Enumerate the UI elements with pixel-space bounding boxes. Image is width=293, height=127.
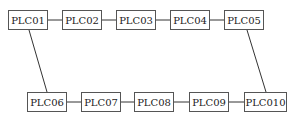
link-plc01-plc06 [29,30,47,92]
node-label: PLC06 [30,97,64,108]
node-label: PLC03 [119,15,153,26]
node-plc06: PLC06 [27,92,67,112]
node-label: PLC04 [173,15,207,26]
node-label: PLC05 [227,15,261,26]
node-plc010: PLC010 [244,92,287,112]
node-label: PLC09 [192,97,226,108]
node-plc03: PLC03 [116,10,156,30]
node-label: PLC07 [84,97,118,108]
node-label: PLC02 [65,15,99,26]
node-label: PLC01 [11,15,45,26]
node-plc04: PLC04 [170,10,210,30]
link-plc05-plc010 [247,30,266,92]
node-plc09: PLC09 [189,92,229,112]
node-label: PLC08 [137,97,171,108]
node-plc02: PLC02 [62,10,102,30]
node-plc07: PLC07 [81,92,121,112]
node-plc05: PLC05 [224,10,264,30]
node-plc08: PLC08 [134,92,174,112]
node-label: PLC010 [245,97,285,108]
node-plc01: PLC01 [8,10,48,30]
